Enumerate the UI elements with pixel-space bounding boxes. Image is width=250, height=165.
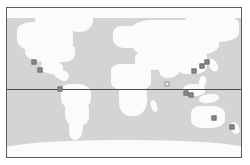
land-asia-siberia-east [183, 16, 239, 42]
site-marker[interactable] [32, 60, 37, 65]
site-marker[interactable] [192, 69, 197, 74]
site-marker[interactable] [212, 116, 217, 121]
site-marker-open[interactable] [165, 82, 170, 87]
land-antarctica [6, 140, 242, 158]
land-australia [191, 106, 225, 128]
land-usa-east [51, 44, 75, 62]
equator-line [7, 89, 241, 90]
world-map-figure [0, 0, 250, 165]
land-africa-south [119, 82, 147, 116]
site-marker[interactable] [230, 125, 235, 130]
site-marker[interactable] [58, 87, 63, 92]
map-frame [6, 7, 242, 158]
site-marker[interactable] [38, 68, 43, 73]
site-marker[interactable] [205, 60, 210, 65]
site-marker[interactable] [189, 93, 194, 98]
